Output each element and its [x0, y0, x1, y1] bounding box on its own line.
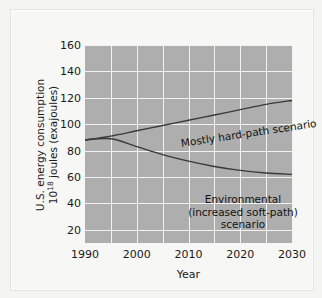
x-axis-tick-label: 2030	[268, 249, 316, 260]
figure: Mostly hard-path scenario Environmental …	[0, 0, 322, 298]
y-axis-title-line1: U.S. energy consumption	[34, 79, 46, 211]
y-axis-title-line2: 1018 joules (exajoules)	[47, 39, 60, 251]
annotation-soft-path-line3: scenario	[221, 218, 265, 230]
y-axis-title-base: 10	[47, 191, 59, 204]
annotation-soft-path-line2: (increased soft-path)	[188, 206, 298, 218]
y-axis-title-units: joules (exajoules)	[47, 86, 59, 181]
x-axis-title: Year	[85, 268, 292, 281]
plot-area: Mostly hard-path scenario Environmental …	[85, 45, 292, 243]
annotation-soft-path-line1: Environmental	[205, 193, 281, 205]
y-axis-title: U.S. energy consumption 1018 joules (exa…	[34, 39, 60, 251]
x-axis-tick-labels: 19902000201020202030	[11, 249, 322, 265]
x-axis-tick-label: 2020	[216, 249, 264, 260]
x-axis-tick-label: 2000	[113, 249, 161, 260]
annotation-soft-path-label: Environmental (increased soft-path) scen…	[181, 193, 305, 231]
y-axis-title-exponent: 18	[46, 181, 55, 191]
x-axis-tick-label: 2010	[165, 249, 213, 260]
x-axis-tick-label: 1990	[61, 249, 109, 260]
figure-frame: Mostly hard-path scenario Environmental …	[10, 9, 314, 291]
